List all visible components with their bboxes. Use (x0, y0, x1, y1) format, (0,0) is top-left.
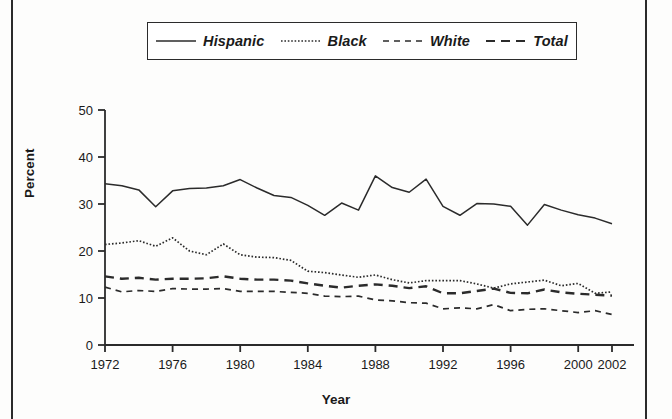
series-line-total (105, 276, 612, 295)
y-tick-label: 0 (86, 338, 93, 353)
series-line-black (105, 238, 612, 293)
x-tick-label: 2002 (598, 357, 627, 372)
series-line-hispanic (105, 176, 612, 225)
x-tick-label: 1976 (158, 357, 187, 372)
y-tick-label: 40 (79, 150, 93, 165)
y-tick-label: 30 (79, 197, 93, 212)
x-tick-label: 1984 (293, 357, 322, 372)
y-axis-title: Percent (22, 148, 37, 198)
x-tick-label: 2000 (564, 357, 593, 372)
y-tick-label: 10 (79, 291, 93, 306)
y-tick-label: 20 (79, 244, 93, 259)
x-axis-title: Year (0, 392, 672, 407)
figure-page: Hispanic Black White Total 0102030405019… (0, 0, 672, 419)
chart-series (105, 176, 612, 315)
chart-axes (98, 110, 634, 352)
y-tick-label: 50 (79, 103, 93, 118)
x-tick-label: 1980 (226, 357, 255, 372)
x-tick-label: 1988 (361, 357, 390, 372)
x-tick-label: 1992 (429, 357, 458, 372)
x-tick-label: 1972 (91, 357, 120, 372)
x-tick-label: 1996 (496, 357, 525, 372)
